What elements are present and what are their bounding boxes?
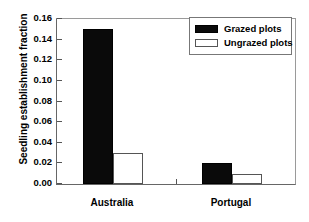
bar bbox=[202, 163, 232, 184]
legend-item: Ungrazed plots bbox=[195, 36, 286, 50]
y-axis-tick bbox=[57, 162, 62, 163]
bar bbox=[232, 174, 262, 184]
legend-label: Ungrazed plots bbox=[224, 37, 293, 49]
y-axis-tick-label: 0.06 bbox=[20, 116, 52, 126]
x-axis-category-label: Portugal bbox=[181, 196, 281, 210]
y-axis-tick-label: 0.12 bbox=[20, 54, 52, 64]
y-axis-tick-label: 0.00 bbox=[20, 178, 52, 188]
legend-label: Grazed plots bbox=[224, 23, 282, 35]
legend-swatch-grazed-icon bbox=[195, 25, 218, 33]
y-axis-tick-label: 0.16 bbox=[20, 13, 52, 23]
chart-legend: Grazed plots Ungrazed plots bbox=[189, 17, 292, 55]
y-axis-tick-labels: 0.000.020.040.060.080.100.120.140.16 bbox=[18, 0, 52, 222]
y-axis-tick bbox=[57, 101, 62, 102]
bar-chart-figure: Seedling establishment fraction 0.000.02… bbox=[0, 0, 309, 222]
y-axis-tick bbox=[57, 18, 62, 19]
x-axis-category-labels: AustraliaPortugal bbox=[56, 196, 296, 212]
y-axis-tick bbox=[57, 183, 62, 184]
y-axis-tick-label: 0.10 bbox=[20, 75, 52, 85]
bar bbox=[113, 153, 143, 184]
y-axis-tick bbox=[57, 121, 62, 122]
bar bbox=[83, 29, 113, 184]
y-axis-tick bbox=[57, 142, 62, 143]
x-axis-category-label: Australia bbox=[62, 196, 162, 210]
y-axis-tick-label: 0.04 bbox=[20, 137, 52, 147]
y-axis-tick bbox=[57, 59, 62, 60]
x-axis-tick bbox=[176, 179, 177, 184]
y-axis-tick-label: 0.14 bbox=[20, 34, 52, 44]
y-axis-tick bbox=[57, 39, 62, 40]
y-axis-tick bbox=[57, 80, 62, 81]
legend-item: Grazed plots bbox=[195, 22, 286, 36]
y-axis-tick-label: 0.02 bbox=[20, 157, 52, 167]
legend-swatch-ungrazed-icon bbox=[195, 39, 218, 47]
y-axis-tick-label: 0.08 bbox=[20, 96, 52, 106]
